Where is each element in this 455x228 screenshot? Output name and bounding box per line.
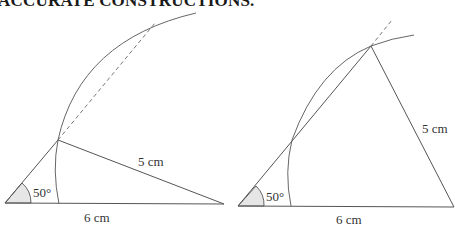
angle-label: 50°	[266, 189, 284, 204]
dashed-extension	[58, 23, 155, 140]
angle-marker	[238, 186, 264, 206]
construction-arc	[55, 13, 196, 204]
construction-arc	[288, 35, 414, 206]
angle-label: 50°	[33, 185, 51, 200]
angle-line	[238, 46, 371, 206]
base-label: 6 cm	[336, 212, 362, 227]
right-construction: 50° 5 cm 6 cm	[238, 20, 454, 227]
side-label: 5 cm	[138, 154, 164, 169]
side-label: 5 cm	[422, 121, 448, 136]
base-line	[5, 203, 224, 204]
angle-marker	[5, 183, 31, 203]
side-line	[58, 140, 224, 204]
left-construction: 50° 5 cm 6 cm	[5, 13, 224, 225]
constructions-diagram: 50° 5 cm 6 cm 50° 5 cm 6 cm	[0, 0, 455, 228]
base-line	[238, 206, 454, 207]
base-label: 6 cm	[84, 210, 110, 225]
